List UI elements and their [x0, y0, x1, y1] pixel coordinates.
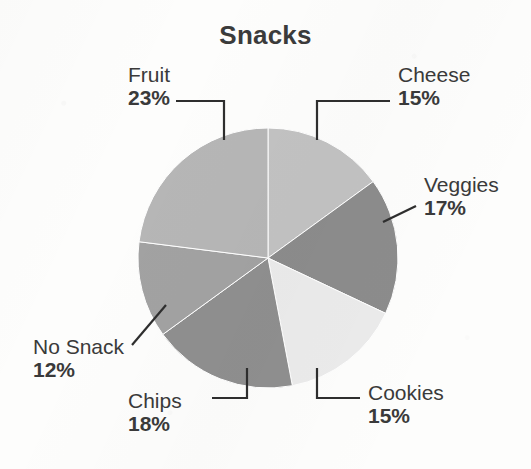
- slice-label-chips: Chips 18%: [128, 390, 182, 435]
- slice-label-no-snack: No Snack 12%: [33, 336, 124, 381]
- pie-slices-group: [138, 128, 398, 388]
- slice-label-veggies-name: Veggies: [424, 174, 499, 197]
- slice-label-cheese-name: Cheese: [398, 64, 470, 87]
- slice-label-chips-value: 18%: [128, 413, 182, 436]
- slice-label-fruit-name: Fruit: [128, 64, 170, 87]
- slice-label-chips-name: Chips: [128, 390, 182, 413]
- slice-label-cheese: Cheese 15%: [398, 64, 470, 109]
- slice-label-fruit-value: 23%: [128, 87, 170, 110]
- slice-label-cookies-value: 15%: [368, 405, 444, 428]
- slice-label-cheese-value: 15%: [398, 87, 470, 110]
- slice-label-no-snack-name: No Snack: [33, 336, 124, 359]
- slice-label-veggies: Veggies 17%: [424, 174, 499, 219]
- slice-label-cookies: Cookies 15%: [368, 382, 444, 427]
- slice-label-cookies-name: Cookies: [368, 382, 444, 405]
- slice-label-no-snack-value: 12%: [33, 359, 124, 382]
- slice-label-veggies-value: 17%: [424, 197, 499, 220]
- chart-title: Snacks: [0, 20, 531, 51]
- pie-slice-fruit: [139, 128, 268, 258]
- leader-line-cheese: [317, 101, 390, 140]
- pie-chart-figure: Snacks Fruit 23% Cheese 15% Veggies 1: [0, 0, 531, 469]
- leader-line-fruit: [176, 101, 224, 140]
- slice-label-fruit: Fruit 23%: [128, 64, 170, 109]
